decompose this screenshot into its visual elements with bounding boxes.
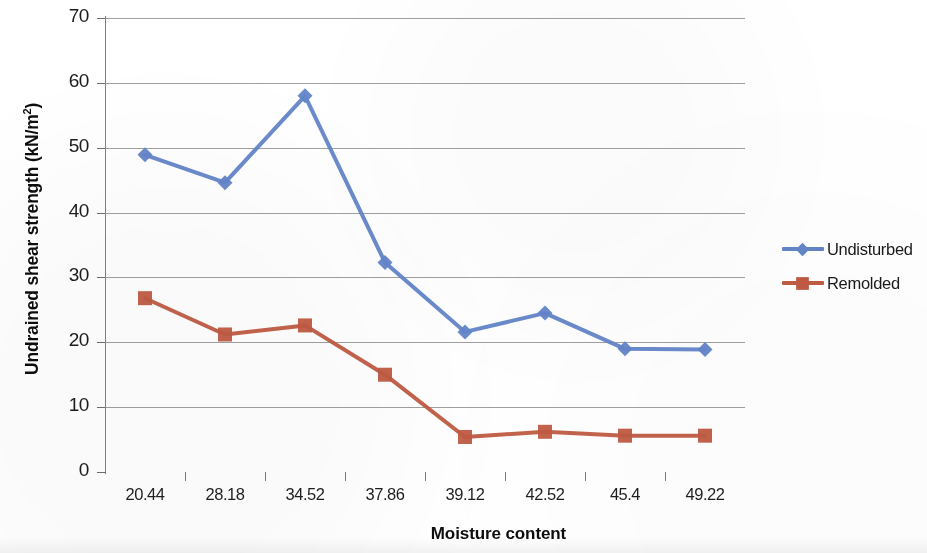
gridline [105, 213, 745, 214]
square-marker-icon [795, 276, 810, 291]
x-axis-tick-label: 37.86 [340, 485, 430, 504]
y-axis-title: Undrained shear strength (kN/m2) [21, 29, 43, 449]
legend-key-remolded [782, 275, 824, 291]
x-axis-title: Moisture content [0, 524, 927, 544]
chart-container: Undrained shear strength (kN/m2) 0102030… [0, 0, 927, 553]
diamond-marker-icon [795, 242, 810, 257]
legend-key-undisturbed [782, 241, 824, 257]
x-axis-tick-label: 28.18 [180, 485, 270, 504]
gridline [105, 18, 745, 19]
y-axis-tick-label: 10 [29, 394, 89, 416]
plot-area [105, 18, 745, 472]
x-axis-tick [505, 472, 506, 481]
x-axis-tick [585, 472, 586, 481]
y-axis-tick [97, 472, 106, 473]
x-axis-tick-label: 45.4 [580, 485, 670, 504]
y-axis-tick-label: 40 [29, 200, 89, 222]
x-axis-tick [185, 472, 186, 481]
x-axis-tick [345, 472, 346, 481]
gridline [105, 83, 745, 84]
legend-label-undisturbed: Undisturbed [827, 240, 913, 259]
x-axis-tick [425, 472, 426, 481]
y-axis-tick-label: 0 [29, 459, 89, 481]
x-axis-tick-label: 42.52 [500, 485, 590, 504]
chart-legend: Undisturbed Remolded [782, 232, 913, 300]
x-axis-tick [265, 472, 266, 481]
y-axis-tick-label: 30 [29, 264, 89, 286]
legend-item-undisturbed[interactable]: Undisturbed [782, 232, 913, 266]
gridline [105, 407, 745, 408]
y-axis-title-superscript: 2 [21, 109, 33, 115]
y-axis-tick-label: 70 [29, 5, 89, 27]
y-axis-tick-label: 50 [29, 135, 89, 157]
x-axis-tick-label: 39.12 [420, 485, 510, 504]
x-axis-tick [665, 472, 666, 481]
x-axis-tick-label: 20.44 [100, 485, 190, 504]
legend-item-remolded[interactable]: Remolded [782, 266, 913, 300]
y-axis-title-close: ) [22, 103, 42, 109]
legend-label-remolded: Remolded [827, 274, 900, 293]
y-axis-tick-label: 20 [29, 329, 89, 351]
gridline [105, 342, 745, 343]
x-axis-tick-label: 49.22 [660, 485, 750, 504]
x-axis-tick-label: 34.52 [260, 485, 350, 504]
gridline [105, 148, 745, 149]
y-axis-tick-label: 60 [29, 70, 89, 92]
gridline [105, 277, 745, 278]
